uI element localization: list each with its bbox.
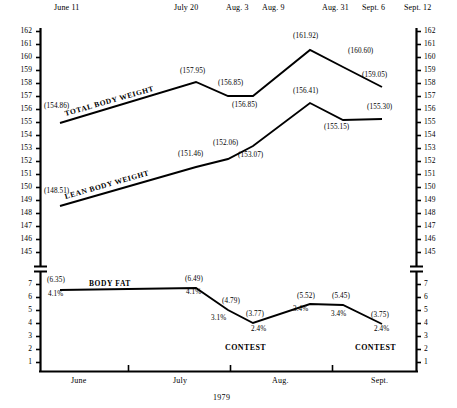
left-tick-label-159: 159 [14, 66, 32, 74]
left-tick-label-156: 156 [14, 105, 32, 113]
right-tick-label-161: 161 [424, 40, 442, 48]
fat-percent-label-3: 3.1% [211, 315, 226, 322]
x-axis-year-label: 1979 [213, 394, 230, 402]
fat-percent-label-6: 3.4% [331, 311, 346, 318]
bottom-tick-marks [129, 365, 333, 371]
right-tick-label-151: 151 [424, 170, 442, 178]
fat-value-label-5: (5.52) [297, 293, 315, 300]
fat-percent-label-4: 2.4% [251, 326, 266, 333]
left-tick-label-153: 153 [14, 144, 32, 152]
fat-percent-label-1: 4.1% [48, 291, 63, 298]
left-fat-tick-label-2: 2 [14, 345, 32, 353]
left-fat-tick-label-1: 1 [14, 358, 32, 366]
left-tick-label-158: 158 [14, 79, 32, 87]
right-tick-label-157: 157 [424, 92, 442, 100]
left-tick-label-150: 150 [14, 183, 32, 191]
lean-value-label-5: (156.41) [293, 88, 318, 95]
body-composition-chart: June 11 July 20 Aug. 3 Aug. 9 Aug. 31 Se… [0, 0, 457, 408]
contest-annotation-1: CONTEST [225, 344, 266, 352]
left-tick-label-157: 157 [14, 92, 32, 100]
right-tick-label-156: 156 [424, 105, 442, 113]
left-tick-label-154: 154 [14, 131, 32, 139]
x-axis-label-sept: Sept. [371, 377, 388, 385]
lean-body-weight-line [60, 103, 382, 206]
x-axis-label-june: June [71, 377, 86, 385]
total-value-label-7: (159.05) [362, 72, 387, 79]
left-fat-tick-label-5: 5 [14, 306, 32, 314]
lean-value-label-3: (152.06) [213, 140, 238, 147]
right-tick-label-148: 148 [424, 209, 442, 217]
series-label-body-fat: BODY FAT [89, 280, 131, 288]
left-tick-label-146: 146 [14, 235, 32, 243]
left-tick-label-147: 147 [14, 222, 32, 230]
right-fat-tick-label-5: 5 [424, 306, 442, 314]
right-tick-label-159: 159 [424, 66, 442, 74]
left-tick-label-151: 151 [14, 170, 32, 178]
lean-value-label-4: (153.07) [238, 152, 263, 159]
fat-value-label-4: (3.77) [246, 311, 264, 318]
fat-value-label-6: (5.45) [332, 293, 350, 300]
right-fat-tick-label-6: 6 [424, 293, 442, 301]
total-value-label-5: (161.92) [293, 33, 318, 40]
fat-value-label-3: (4.79) [222, 298, 240, 305]
right-tick-label-160: 160 [424, 53, 442, 61]
left-tick-label-162: 162 [14, 27, 32, 35]
contest-annotation-2: CONTEST [355, 344, 396, 352]
right-tick-label-149: 149 [424, 196, 442, 204]
right-fat-tick-label-7: 7 [424, 280, 442, 288]
fat-percent-label-2: 4.1% [186, 289, 201, 296]
fat-value-label-2: (6.49) [185, 276, 203, 283]
left-tick-label-152: 152 [14, 157, 32, 165]
right-tick-label-145: 145 [424, 248, 442, 256]
right-tick-label-146: 146 [424, 235, 442, 243]
x-axis-label-aug: Aug. [272, 377, 289, 385]
total-value-label-6: (160.60) [348, 48, 373, 55]
left-tick-label-155: 155 [14, 118, 32, 126]
fat-percent-label-5: 3.4% [293, 306, 308, 313]
x-axis-label-july: July [173, 377, 187, 385]
left-fat-tick-label-7: 7 [14, 280, 32, 288]
left-fat-tick-label-4: 4 [14, 319, 32, 327]
left-fat-tick-label-6: 6 [14, 293, 32, 301]
left-fat-tick-label-3: 3 [14, 332, 32, 340]
right-tick-label-150: 150 [424, 183, 442, 191]
left-tick-label-161: 161 [14, 40, 32, 48]
right-fat-tick-label-2: 2 [424, 345, 442, 353]
fat-value-label-7: (3.75) [371, 312, 389, 319]
lean-value-label-6: (155.15) [324, 124, 349, 131]
lean-value-label-2: (151.46) [178, 151, 203, 158]
right-tick-label-152: 152 [424, 157, 442, 165]
right-fat-tick-label-4: 4 [424, 319, 442, 327]
fat-percent-label-7: 2.4% [374, 326, 389, 333]
left-tick-label-160: 160 [14, 53, 32, 61]
right-tick-label-153: 153 [424, 144, 442, 152]
left-tick-label-149: 149 [14, 196, 32, 204]
total-value-label-4: (156.85) [232, 102, 257, 109]
right-tick-label-158: 158 [424, 79, 442, 87]
right-fat-tick-label-1: 1 [424, 358, 442, 366]
left-tick-label-145: 145 [14, 248, 32, 256]
right-fat-tick-label-3: 3 [424, 332, 442, 340]
right-tick-label-162: 162 [424, 27, 442, 35]
total-value-label-2: (157.95) [180, 68, 205, 75]
right-tick-label-154: 154 [424, 131, 442, 139]
left-tick-label-148: 148 [14, 209, 32, 217]
right-tick-label-147: 147 [424, 222, 442, 230]
total-value-label-3: (156.85) [218, 80, 243, 87]
right-tick-label-155: 155 [424, 118, 442, 126]
fat-value-label-1: (6.35) [47, 277, 65, 284]
lean-value-label-7: (155.30) [367, 104, 392, 111]
